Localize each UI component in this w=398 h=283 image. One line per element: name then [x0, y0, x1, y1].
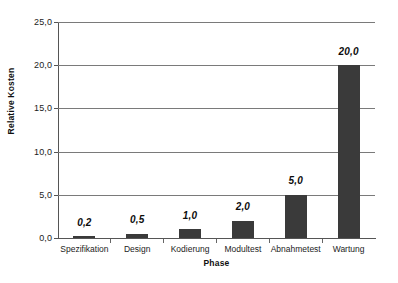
bar-value-label: 2,0	[236, 201, 251, 212]
x-axis-tick-mark	[110, 239, 111, 243]
y-tick-label: 25,0	[20, 18, 52, 27]
bar	[126, 234, 148, 238]
bar-value-label: 0,5	[130, 214, 145, 225]
bar-value-label: 0,2	[77, 217, 92, 228]
bar-value-label: 1,0	[183, 210, 198, 221]
y-axis-title: Relative Kosten	[6, 46, 16, 156]
y-tick-label: 15,0	[20, 104, 52, 113]
bar	[338, 65, 360, 238]
y-axis-tick-labels: 25,0 20,0 15,0 10,0 5,0 0,0	[18, 0, 52, 283]
bar	[285, 195, 307, 238]
plot-area: 0,2 0,5 1,0 2,0 5,0 20,0	[58, 22, 375, 238]
x-axis-category-label: Spezifikation	[58, 244, 111, 254]
bar-value-label: 5,0	[288, 175, 303, 186]
bar-value-label: 20,0	[338, 46, 358, 57]
y-tick-label: 5,0	[20, 191, 52, 200]
bar	[232, 221, 254, 238]
x-axis-category-label: Wartung	[322, 244, 375, 254]
x-axis-tick-mark	[322, 239, 323, 243]
x-axis-tick-mark	[216, 239, 217, 243]
x-axis-category-label: Modultest	[217, 244, 270, 254]
bar-group: 0,2	[58, 22, 111, 238]
bar	[73, 236, 95, 238]
x-axis-tick-mark	[269, 239, 270, 243]
bar-group: 20,0	[322, 22, 375, 238]
bar	[179, 229, 201, 238]
x-axis-tick-mark	[163, 239, 164, 243]
bar-group: 5,0	[269, 22, 322, 238]
bar-group: 2,0	[217, 22, 270, 238]
bar-group: 0,5	[111, 22, 164, 238]
x-axis-category-label: Kodierung	[164, 244, 217, 254]
x-axis-category-label: Design	[111, 244, 164, 254]
x-axis-title: Phase	[58, 258, 375, 268]
bar-group: 1,0	[164, 22, 217, 238]
x-axis-line	[58, 238, 376, 239]
x-axis-category-label: Abnahmetest	[269, 244, 322, 254]
y-tick-label: 20,0	[20, 61, 52, 70]
y-tick-label: 0,0	[20, 234, 52, 243]
bar-chart-figure: 25,0 20,0 15,0 10,0 5,0 0,0 Relative Kos…	[0, 0, 398, 283]
y-tick-label: 10,0	[20, 148, 52, 157]
